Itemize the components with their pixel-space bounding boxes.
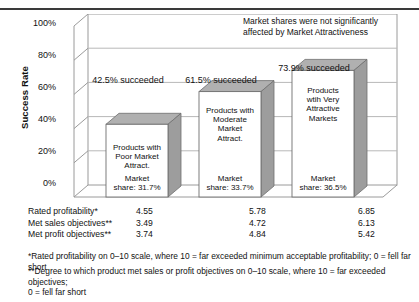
bar-3-market-share: Market share: 36.5% (292, 174, 354, 192)
bar-1-category-label: Products with Poor Market Attract. (106, 143, 168, 171)
row-label-met-sales-objectives: Met sales objectives** (28, 218, 112, 228)
y-tick-80: 80% (22, 50, 56, 60)
row-0-value-0: 4.55 (136, 206, 178, 216)
data-table: Rated profitability* 4.55 5.78 6.85 Met … (28, 206, 413, 241)
row-1-value-1: 4.72 (249, 218, 291, 228)
y-tick-20: 20% (22, 146, 56, 156)
table-row: Met profit objectives** 3.74 4.84 5.42 (28, 229, 413, 241)
row-0-value-1: 5.78 (249, 206, 291, 216)
y-axis-title: Success Rate (19, 55, 30, 141)
row-0-value-2: 6.85 (358, 206, 400, 216)
row-2-value-2: 5.42 (358, 229, 400, 239)
bar-1-market-share: Market share: 31.7% (106, 174, 168, 192)
annotation-market-shares: Market shares were not significantly aff… (243, 16, 411, 37)
footnote-2: **Degree to which product met sales or p… (28, 266, 419, 298)
row-label-met-profit-objectives: Met profit objectives** (28, 229, 111, 239)
figure: Success Rate 100% 80% 60% 40% 20% 0% (0, 0, 419, 302)
row-1-value-0: 3.49 (136, 218, 178, 228)
table-row: Rated profitability* 4.55 5.78 6.85 (28, 206, 413, 218)
row-1-value-2: 6.13 (358, 218, 400, 228)
y-tick-60: 60% (22, 82, 56, 92)
bar-2-success-label: 61.5% succeeded (171, 75, 271, 85)
bar-2-category-label: Products with Moderate Market Attract. (199, 106, 261, 143)
bar-3-success-label: 73.9% succeeded (264, 63, 364, 73)
row-2-value-0: 3.74 (136, 229, 178, 239)
row-label-rated-profitability: Rated profitability* (28, 206, 98, 216)
y-tick-0: 0% (22, 178, 56, 188)
y-tick-40: 40% (22, 114, 56, 124)
bar-2-market-share: Market share: 33.7% (199, 174, 261, 192)
bar-1-success-label: 42.5% succeeded (78, 75, 178, 85)
row-2-value-1: 4.84 (249, 229, 291, 239)
top-divider-rule (0, 8, 419, 10)
y-tick-100: 100% (22, 18, 56, 28)
bar-3-category-label: Products wtih Very Attractive Markets (292, 86, 354, 123)
table-row: Met sales objectives** 3.49 4.72 6.13 (28, 218, 413, 230)
